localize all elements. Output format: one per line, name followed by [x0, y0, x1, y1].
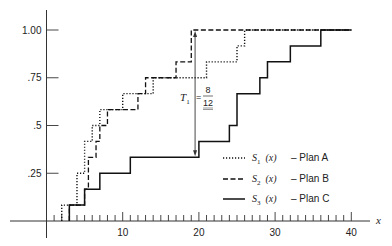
legend-label: S2(x): [252, 173, 277, 187]
y-tick-label: 1.00: [22, 25, 42, 36]
y-tick-label: .25: [28, 168, 42, 179]
y-tick-label: .75: [28, 72, 42, 83]
legend-label: S3(x): [252, 193, 277, 207]
tick-marks: 10203040.25.5.751.00: [22, 25, 357, 239]
svg-text:=: =: [196, 92, 201, 102]
x-tick-label: 30: [270, 227, 282, 238]
x-tick-label: 20: [193, 227, 205, 238]
annotation-t1: T1=812: [176, 31, 218, 156]
legend-plan: – Plan C: [291, 193, 329, 204]
x-tick-label: 10: [117, 227, 129, 238]
x-tick-label: 40: [346, 227, 358, 238]
annotation-numerator: 8: [205, 85, 210, 95]
legend: S1(x)– Plan AS2(x)– Plan BS3(x)– Plan C: [223, 152, 329, 207]
arrow-down-icon: [193, 150, 197, 156]
legend-plan: – Plan A: [291, 152, 329, 163]
annotation-denominator: 12: [203, 98, 213, 108]
x-axis-label: x: [375, 214, 381, 226]
legend-label: S1(x): [252, 152, 277, 166]
step-chart: x 10203040.25.5.751.00 T1=812 S1(x)– Pla…: [0, 0, 392, 246]
y-tick-label: .5: [33, 120, 42, 131]
arrow-up-icon: [193, 31, 197, 37]
legend-plan: – Plan B: [291, 173, 329, 184]
